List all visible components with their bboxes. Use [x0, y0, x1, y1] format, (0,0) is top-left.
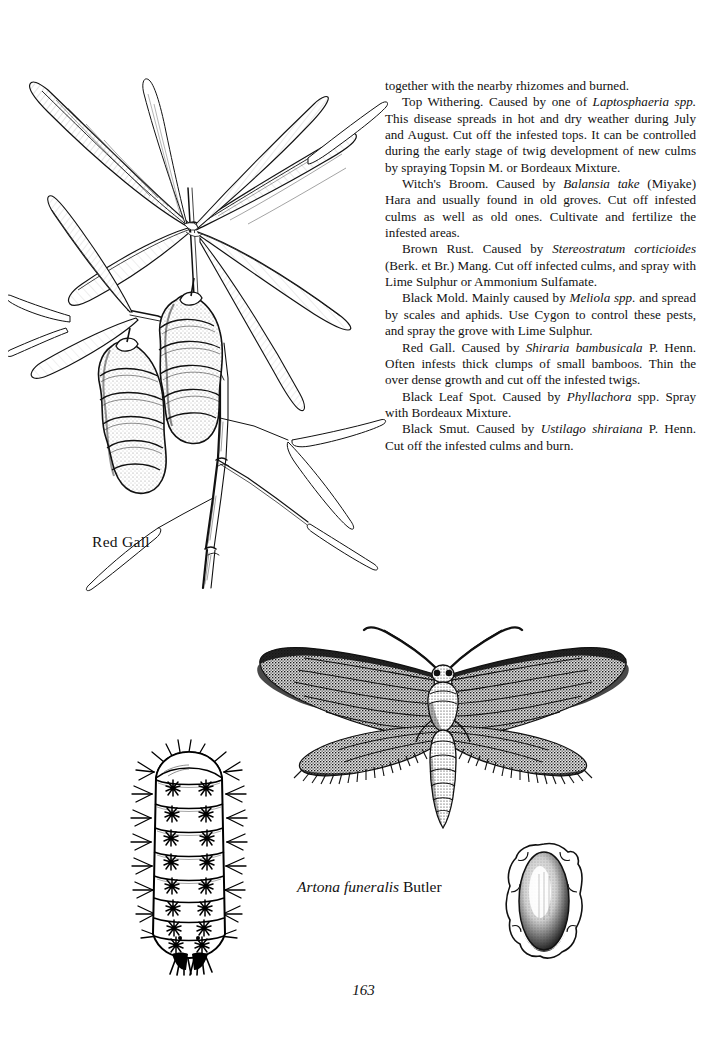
book-page: together with the nearby rhizomes and bu…	[0, 0, 727, 1047]
paragraph-black-mold: Black Mold. Mainly caused by Meliola spp…	[385, 290, 696, 339]
disease-lead: Witch's Broom. Caused by	[402, 176, 563, 191]
organism-name: Balansia take	[563, 176, 639, 191]
disease-lead: Black Leaf Spot. Caused by	[402, 389, 567, 404]
disease-rest: (Berk. et Br.) Mang. Cut off infected cu…	[385, 258, 696, 289]
paragraph-black-leaf-spot: Black Leaf Spot. Caused by Phyllachora s…	[385, 389, 696, 422]
paragraph-witchs-broom: Witch's Broom. Caused by Balansia take (…	[385, 176, 696, 241]
paragraph-continued: together with the nearby rhizomes and bu…	[385, 78, 696, 94]
organism-name: Shiraria bambusicala	[526, 340, 643, 355]
page-number: 163	[0, 982, 727, 999]
disease-lead: Top Withering. Caused by one of	[402, 94, 593, 109]
disease-lead: Black Mold. Mainly caused by	[402, 290, 569, 305]
disease-lead: Brown Rust. Caused by	[402, 241, 552, 256]
organism-name: Stereostratum corticioides	[552, 241, 696, 256]
cocoon-illustration	[498, 840, 590, 962]
caterpillar-larva-illustration	[128, 738, 250, 976]
paragraph-red-gall: Red Gall. Caused by Shiraria bambusicala…	[385, 340, 696, 389]
disease-rest: This disease spreads in hot and dry weat…	[385, 111, 696, 175]
disease-lead: Red Gall. Caused by	[402, 340, 526, 355]
disease-lead: Black Smut. Caused by	[402, 421, 541, 436]
body-text-column: together with the nearby rhizomes and bu…	[385, 78, 696, 454]
caption-species-name: Artona funeralis	[297, 878, 399, 895]
caption-moth: Artona funeralis Butler	[297, 878, 442, 896]
paragraph-top-withering: Top Withering. Caused by one of Laptosph…	[385, 94, 696, 176]
organism-name: Phyllachora	[567, 389, 632, 404]
organism-name: Meliola spp.	[569, 290, 635, 305]
caption-red-gall: Red Gall	[92, 533, 150, 551]
organism-name: Laptosphaeria spp.	[593, 94, 696, 109]
organism-name: Ustilago shiraiana	[541, 421, 643, 436]
caption-author-name: Butler	[399, 878, 442, 895]
paragraph-brown-rust: Brown Rust. Caused by Stereostratum cort…	[385, 241, 696, 290]
bamboo-red-gall-illustration	[8, 28, 388, 608]
paragraph-black-smut: Black Smut. Caused by Ustilago shiraiana…	[385, 421, 696, 454]
